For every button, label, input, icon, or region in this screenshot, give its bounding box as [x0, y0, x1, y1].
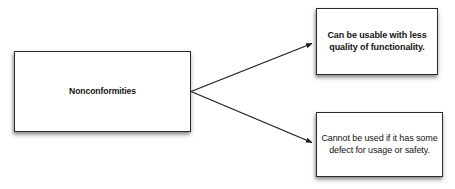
- node-can-be-usable[interactable]: Can be usable with less quality of funct…: [316, 8, 438, 75]
- node-cannot-be-used[interactable]: Cannot be used if it has some defect for…: [316, 112, 443, 177]
- connector-root-to-branch-1: [191, 44, 312, 92]
- node-can-be-usable-label: Can be usable with less quality of funct…: [317, 30, 437, 54]
- node-cannot-be-used-label: Cannot be used if it has some defect for…: [317, 133, 442, 157]
- connector-root-to-branch-2: [191, 92, 312, 143]
- node-nonconformities-label: Nonconformities: [65, 86, 140, 97]
- node-nonconformities[interactable]: Nonconformities: [14, 51, 191, 132]
- diagram-canvas: Nonconformities Can be usable with less …: [0, 0, 455, 189]
